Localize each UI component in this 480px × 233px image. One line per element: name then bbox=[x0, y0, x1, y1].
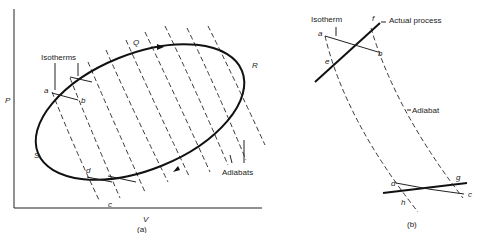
point-q-label: Q bbox=[133, 38, 139, 47]
point-c-label-b: c bbox=[468, 190, 472, 199]
point-h-label-b: h bbox=[401, 198, 406, 207]
point-f-label-b: f bbox=[372, 14, 375, 23]
point-a-label-b: a bbox=[318, 29, 323, 38]
point-c-label: c bbox=[108, 200, 112, 209]
caption-a: (a) bbox=[137, 225, 147, 233]
point-a-label: a bbox=[44, 86, 49, 95]
isotherm-label: Isotherm bbox=[311, 15, 342, 24]
point-e-label-b: e bbox=[325, 57, 330, 66]
point-g-label-b: g bbox=[456, 173, 461, 182]
y-axis-label: P bbox=[5, 96, 11, 105]
point-d-label-b: d bbox=[391, 179, 396, 188]
carnot-cycle-figure: P V (a) bbox=[0, 0, 480, 233]
isotherm-segments bbox=[52, 63, 244, 182]
adiabats-label: Adiabats bbox=[222, 168, 253, 177]
point-b-label: b bbox=[81, 96, 86, 105]
actual-process-top bbox=[315, 23, 380, 82]
panel-b: Isotherm Actual process Adiabat a b c d … bbox=[311, 14, 472, 229]
point-s-label: S bbox=[34, 151, 40, 160]
actual-process-label: Actual process bbox=[389, 16, 441, 25]
cycle-curve bbox=[16, 17, 263, 207]
x-axis-label: V bbox=[143, 215, 149, 224]
adiabat-left bbox=[325, 36, 418, 212]
adiabat-label: Adiabat bbox=[412, 106, 440, 115]
point-d-label: d bbox=[86, 166, 91, 175]
point-r-label: R bbox=[252, 61, 258, 70]
arrow-bottom-icon bbox=[173, 166, 180, 172]
point-b-label-b: b bbox=[378, 49, 383, 58]
isotherms-label: Isotherms bbox=[41, 53, 76, 62]
panel-a: P V (a) bbox=[5, 9, 265, 233]
caption-b: (b) bbox=[407, 220, 417, 229]
